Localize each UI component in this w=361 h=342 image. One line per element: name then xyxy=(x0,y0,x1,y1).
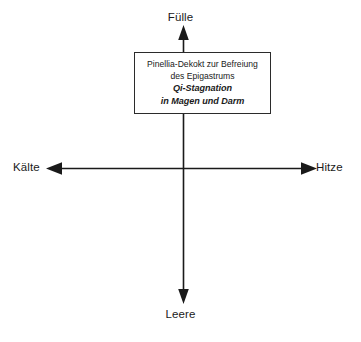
axis-label-top: Fülle xyxy=(0,12,361,24)
arrowhead-right-icon xyxy=(301,162,317,175)
concept-box-line: Pinellia-Dekokt zur Befreiung xyxy=(147,58,258,70)
arrowhead-left-icon xyxy=(46,162,62,175)
axis-label-bottom: Leere xyxy=(0,309,361,321)
arrowhead-down-icon xyxy=(178,289,189,304)
quadrant-diagram: Fülle Leere Kälte Hitze Pinellia-Dekokt … xyxy=(0,0,361,342)
axis-label-right: Hitze xyxy=(316,162,343,174)
axis-label-left: Kälte xyxy=(13,162,40,174)
concept-box-line: Qi-Stagnation xyxy=(173,82,232,95)
concept-box: Pinellia-Dekokt zur Befreiung des Epigas… xyxy=(134,52,271,114)
concept-box-line: des Epigastrums xyxy=(170,70,234,82)
concept-box-line: in Magen und Darm xyxy=(161,95,245,108)
arrowhead-up-icon xyxy=(178,25,189,40)
